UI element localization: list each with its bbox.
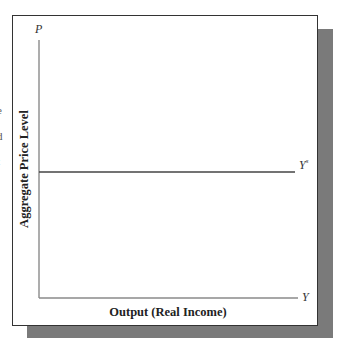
chart-plot-area	[0, 0, 337, 347]
x-axis-symbol: Y	[302, 290, 309, 305]
y-axis-symbol: P	[35, 22, 42, 37]
curve-label-main: Y	[299, 158, 306, 172]
x-axis-label: Output (Real Income)	[109, 305, 226, 320]
curve-label-superscript: s	[306, 157, 309, 165]
y-axis-label: Aggregate Price Level	[17, 110, 32, 228]
curve-label-ys: Ys	[299, 158, 308, 173]
